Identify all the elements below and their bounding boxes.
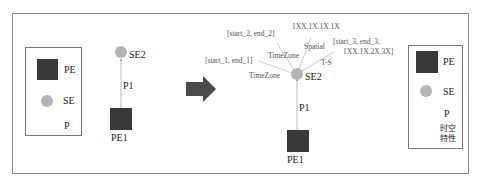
after-se2-label: SE2 bbox=[305, 72, 322, 82]
right-legend-se-circle-icon bbox=[420, 85, 432, 97]
right-legend-pe-square-icon bbox=[416, 51, 438, 73]
attr-timezone-2-value: [start_2, end_2] bbox=[227, 30, 275, 38]
before-p1-label: P1 bbox=[123, 81, 134, 91]
attr-timezone-1-edge: TimeZone bbox=[249, 72, 280, 80]
before-pe1-label: PE1 bbox=[111, 133, 128, 143]
before-se2-node bbox=[115, 46, 127, 58]
attr-timezone-1-value: [start_1, end_1] bbox=[205, 57, 253, 65]
right-legend-st-label-line2: 特性 bbox=[440, 135, 456, 143]
after-pe1-node bbox=[287, 130, 309, 152]
after-pe1-label: PE1 bbox=[287, 155, 304, 165]
attr-timezone-2-edge: TimeZone bbox=[268, 52, 299, 60]
legend-p-label: P bbox=[64, 121, 70, 131]
before-pe1-node bbox=[110, 108, 132, 130]
right-legend-p-label: P bbox=[444, 109, 450, 119]
before-edge-arrowhead-icon bbox=[120, 58, 122, 61]
legend-se-label: SE bbox=[63, 96, 75, 106]
left-legend: PE SE P bbox=[25, 47, 82, 136]
legend-se-circle-icon bbox=[41, 95, 53, 107]
after-se2-node bbox=[291, 68, 303, 80]
right-legend-st-label-line1: 时空 bbox=[440, 125, 456, 133]
legend-pe-label: PE bbox=[64, 65, 76, 75]
attr-spatial-value: 1XX.1X.1X.1X bbox=[292, 23, 340, 31]
attr-spatial-edge: Spatial bbox=[304, 43, 325, 51]
right-legend-se-label: SE bbox=[443, 87, 455, 97]
attr-ts-value-line2: 1XX.1X.2X.3X] bbox=[343, 48, 393, 56]
attr-ts-edge: T-S bbox=[321, 59, 332, 67]
attr-ts-value-line1: [start_3, end_3, bbox=[333, 38, 380, 46]
transform-arrow-icon bbox=[186, 76, 216, 102]
before-se2-label: SE2 bbox=[129, 50, 146, 60]
right-legend-pe-label: PE bbox=[443, 57, 455, 67]
after-p1-label: P1 bbox=[299, 103, 310, 113]
legend-pe-square-icon bbox=[37, 59, 58, 80]
right-legend: PE SE P 时空 特性 bbox=[408, 45, 463, 149]
